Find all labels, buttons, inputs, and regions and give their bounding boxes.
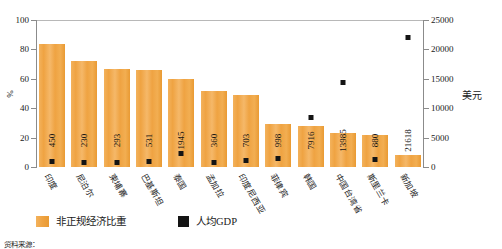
category-label: 斯里兰卡	[366, 172, 392, 208]
gdp-value-label: 1945	[177, 132, 186, 150]
right-axis-tick-label: 20000	[431, 45, 454, 54]
bar-slot: 7916	[298, 20, 324, 167]
right-axis-tick	[424, 108, 429, 109]
gdp-marker-icon	[373, 157, 378, 162]
legend-label-gdp-per-capita: 人均GDP	[196, 216, 237, 227]
legend-item-gdp-per-capita[interactable]: 人均GDP	[178, 216, 237, 227]
left-axis-tick-label: 60	[20, 75, 29, 84]
category-label: 泰国	[172, 172, 189, 192]
gdp-marker-icon	[211, 160, 216, 165]
bar[interactable]: 7916	[298, 126, 324, 167]
bar[interactable]: 13985	[330, 133, 356, 167]
bar-slot: 21618	[395, 20, 421, 167]
gdp-marker-icon	[82, 160, 87, 165]
category-label-slot: 柬埔寨	[104, 170, 130, 214]
category-label-slot: 中国台湾省	[330, 170, 356, 214]
category-label: 尼泊尔	[75, 172, 96, 200]
right-axis-tick	[424, 138, 429, 139]
bar[interactable]: 450	[39, 44, 65, 167]
left-axis-tick-label: 100	[16, 16, 30, 25]
gdp-marker-icon	[341, 80, 346, 85]
right-axis-title: 美元	[462, 87, 482, 102]
category-label-slot: 泰国	[168, 170, 194, 214]
legend-item-informal-economy[interactable]: 非正规经济比重	[36, 216, 126, 227]
bar[interactable]: 293	[104, 69, 130, 167]
gdp-marker-icon	[147, 159, 152, 164]
bar[interactable]: 360	[201, 91, 227, 167]
right-axis-tick-label: 25000	[431, 16, 454, 25]
bar[interactable]: 531	[136, 70, 162, 167]
category-label: 中国台湾省	[333, 172, 363, 215]
gdp-marker-icon	[276, 156, 281, 161]
left-axis-tick	[31, 167, 36, 168]
right-axis-tick	[424, 167, 429, 168]
left-axis-tick-label: 20	[20, 134, 29, 143]
gdp-value-label: 880	[371, 134, 380, 148]
right-axis-tick-label: 15000	[431, 75, 454, 84]
bar[interactable]: 880	[362, 135, 388, 167]
category-label: 孟加拉	[204, 172, 225, 200]
bar[interactable]: 1945	[168, 79, 194, 167]
right-axis-tick-label: 0	[431, 163, 436, 172]
category-label-slot: 孟加拉	[201, 170, 227, 214]
gdp-marker-icon	[179, 151, 184, 156]
gdp-value-label: 998	[274, 134, 283, 148]
bar-slot: 13985	[330, 20, 356, 167]
left-axis-tick-label: 80	[20, 45, 29, 54]
bar-slot: 230	[71, 20, 97, 167]
right-axis-tick	[424, 49, 429, 50]
bar-slot: 450	[39, 20, 65, 167]
bar-slot: 293	[104, 20, 130, 167]
bar[interactable]: 230	[71, 61, 97, 167]
left-axis-tick-label: 0	[25, 163, 30, 172]
x-axis-category-labels: 印度尼泊尔柬埔寨巴基斯坦泰国孟加拉印度尼西亚菲律宾韩国中国台湾省斯里兰卡新加坡	[36, 170, 424, 214]
source-note: 资料来源：	[4, 241, 39, 249]
gdp-value-label: 7916	[306, 132, 315, 150]
gdp-marker-icon	[405, 35, 410, 40]
right-axis-tick-label: 5000	[431, 134, 449, 143]
category-label-slot: 新加坡	[395, 170, 421, 214]
right-axis-tick	[424, 79, 429, 80]
category-label: 柬埔寨	[107, 172, 128, 200]
orange-square-icon	[36, 216, 49, 227]
right-axis-tick	[424, 20, 429, 21]
bar[interactable]: 21618	[395, 155, 421, 167]
gdp-value-label: 230	[80, 134, 89, 148]
plot-area: 100806040200 2500020000150001000050000 %…	[36, 20, 424, 168]
category-label-slot: 菲律宾	[265, 170, 291, 214]
gdp-value-label: 293	[112, 134, 121, 148]
category-label: 印度	[42, 172, 59, 192]
right-axis-tick-label: 10000	[431, 104, 454, 113]
gdp-value-label: 703	[242, 134, 251, 148]
gdp-marker-icon	[244, 158, 249, 163]
bar-slot: 531	[136, 20, 162, 167]
category-label: 韩国	[301, 172, 318, 192]
black-square-icon	[178, 216, 189, 227]
gdp-value-label: 531	[145, 134, 154, 148]
bar-group: 4502302935311945360703998791613985880216…	[36, 20, 424, 167]
category-label-slot: 斯里兰卡	[362, 170, 388, 214]
bar-slot: 998	[265, 20, 291, 167]
bar-slot: 703	[233, 20, 259, 167]
category-label-slot: 尼泊尔	[71, 170, 97, 214]
gdp-marker-icon	[308, 115, 313, 120]
category-label: 巴基斯坦	[139, 172, 165, 208]
gdp-marker-icon	[50, 159, 55, 164]
left-axis-title: %	[5, 90, 15, 98]
gdp-value-label: 21618	[403, 129, 412, 152]
gdp-marker-icon	[114, 160, 119, 165]
bar[interactable]: 998	[265, 124, 291, 167]
gdp-value-label: 13985	[339, 129, 348, 152]
category-label: 菲律宾	[269, 172, 290, 200]
bar-slot: 1945	[168, 20, 194, 167]
bar-slot: 880	[362, 20, 388, 167]
category-label: 印度尼西亚	[236, 172, 266, 215]
category-label: 新加坡	[398, 172, 419, 200]
bar-slot: 360	[201, 20, 227, 167]
category-label-slot: 印度	[39, 170, 65, 214]
legend-label-informal-economy: 非正规经济比重	[56, 216, 126, 227]
category-label-slot: 巴基斯坦	[136, 170, 162, 214]
gdp-value-label: 450	[48, 134, 57, 148]
bar[interactable]: 703	[233, 95, 259, 167]
category-label-slot: 韩国	[298, 170, 324, 214]
